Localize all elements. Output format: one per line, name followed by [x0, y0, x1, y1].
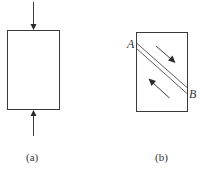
- bottom-compression-arrow-icon: [31, 110, 37, 136]
- point-label-a: A: [126, 37, 135, 51]
- shear-band-lower-line: [137, 49, 188, 95]
- diagram: (a) A B (b): [0, 0, 203, 173]
- block-b: [137, 33, 188, 112]
- caption-b: (b): [155, 151, 168, 164]
- top-compression-arrow-icon: [31, 2, 37, 30]
- shear-band-upper-line: [137, 43, 188, 88]
- panel-a: (a): [8, 2, 60, 164]
- shear-arrow-down-right-icon: [156, 46, 176, 63]
- caption-a: (a): [26, 151, 39, 164]
- shear-arrow-up-left-icon: [149, 79, 170, 99]
- point-label-b: B: [189, 87, 197, 101]
- block-a: [8, 31, 60, 110]
- panel-b: A B (b): [126, 33, 197, 165]
